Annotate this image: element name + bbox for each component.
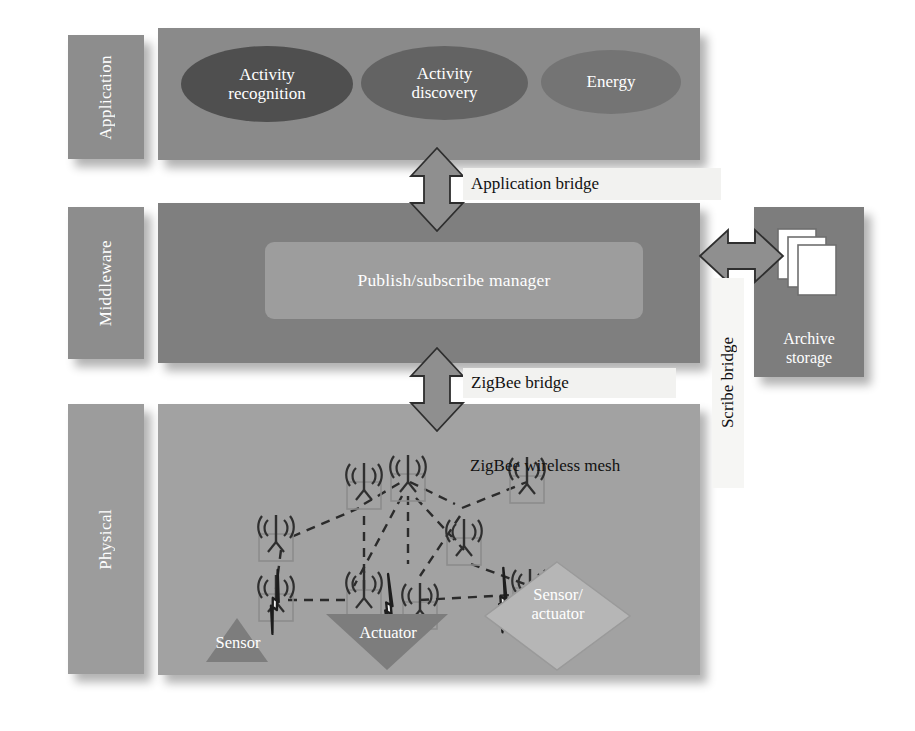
archive-storage[interactable]: Archive storage bbox=[754, 207, 864, 377]
layer-label-application-text: Application bbox=[96, 55, 116, 140]
sensor-label: Sensor bbox=[198, 634, 278, 653]
layer-label-application: Application bbox=[68, 35, 144, 159]
wireless-node-icon bbox=[258, 455, 548, 629]
sensor-actuator-label: Sensor/ actuator bbox=[510, 586, 606, 624]
application-bridge-label: Application bridge bbox=[471, 174, 599, 194]
sensor-actuator-line1: Sensor/ bbox=[510, 586, 606, 605]
scribe-bridge-label: Scribe bridge bbox=[718, 337, 738, 428]
layer-label-middleware-text: Middleware bbox=[96, 240, 116, 326]
layer-label-physical-text: Physical bbox=[96, 509, 116, 570]
activity-recognition-line2: recognition bbox=[228, 84, 305, 103]
mesh-label: ZigBee wireless mesh bbox=[470, 456, 620, 476]
app-component-activity-discovery[interactable]: Activity discovery bbox=[361, 46, 528, 120]
scribe-bridge-label-strip: Scribe bridge bbox=[712, 278, 744, 488]
layer-label-middleware: Middleware bbox=[68, 207, 144, 359]
activity-recognition-line1: Activity bbox=[228, 65, 305, 84]
app-component-energy[interactable]: Energy bbox=[541, 50, 681, 114]
zigbee-bridge-label: ZigBee bridge bbox=[471, 373, 569, 393]
layer-body-application: Activity recognition Activity discovery … bbox=[158, 28, 700, 160]
layer-body-physical: ZigBee wireless mesh Sensor Actuator Sen… bbox=[158, 404, 700, 675]
archive-storage-line1: Archive bbox=[783, 329, 835, 348]
application-bridge-label-strip: Application bridge bbox=[463, 168, 721, 200]
activity-discovery-line1: Activity bbox=[411, 64, 477, 83]
app-component-activity-recognition[interactable]: Activity recognition bbox=[181, 46, 353, 122]
actuator-label: Actuator bbox=[342, 624, 434, 643]
architecture-diagram: Application Activity recognition Activit… bbox=[0, 0, 915, 731]
activity-discovery-line2: discovery bbox=[411, 83, 477, 102]
layer-body-middleware: Publish/subscribe manager bbox=[158, 203, 700, 363]
layer-label-physical: Physical bbox=[68, 404, 144, 674]
zigbee-bridge-label-strip: ZigBee bridge bbox=[463, 368, 676, 398]
sensor-actuator-line2: actuator bbox=[510, 605, 606, 624]
publish-subscribe-manager-label: Publish/subscribe manager bbox=[357, 270, 550, 291]
publish-subscribe-manager[interactable]: Publish/subscribe manager bbox=[265, 242, 643, 319]
archive-storage-line2: storage bbox=[786, 348, 832, 367]
document-stack-icon bbox=[774, 225, 846, 301]
energy-label: Energy bbox=[587, 72, 636, 91]
